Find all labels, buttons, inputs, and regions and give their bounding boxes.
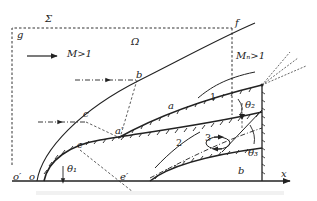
label-1: 1 <box>210 91 216 102</box>
theta2-arc <box>238 99 242 115</box>
label-mach-n: Mₙ>1 <box>235 50 265 61</box>
label-theta1: θ₁ <box>67 163 77 174</box>
label-region-b: b <box>238 165 244 176</box>
label-sigma: Σ <box>44 13 53 24</box>
label-theta2: θ₂ <box>245 99 255 110</box>
caption-illegible <box>36 191 284 195</box>
label-o-prime: o′ <box>13 171 22 182</box>
control-boundary <box>12 28 232 165</box>
label-b: b <box>136 69 142 80</box>
theta3-arc <box>250 125 255 144</box>
label-theta3: θ₃ <box>248 147 258 158</box>
label-e: e <box>77 139 83 150</box>
label-mach: M>1 <box>66 48 92 59</box>
label-o: o <box>29 171 35 182</box>
label-x: x <box>281 168 287 179</box>
label-2: 2 <box>176 137 182 148</box>
label-a: a <box>168 100 174 111</box>
hatching-3 <box>155 149 248 179</box>
label-e-prime: e′ <box>120 171 129 182</box>
label-g: g <box>17 29 23 40</box>
bow-shock <box>37 23 255 181</box>
expansion-fan <box>262 52 306 85</box>
label-3: 3 <box>205 132 211 143</box>
fan-origin-point <box>261 84 264 87</box>
label-c: c <box>83 108 89 119</box>
label-a-prime: a′ <box>115 125 124 136</box>
flow-diagram: Σ g Ω M>1 Mₙ>1 f b c a a′ e e′ o o′ θ₁ θ… <box>0 0 317 201</box>
label-omega: Ω <box>130 36 139 47</box>
label-f: f <box>234 17 241 28</box>
